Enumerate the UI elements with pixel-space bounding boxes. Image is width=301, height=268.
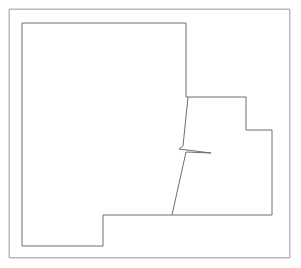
outline-map-svg bbox=[0, 0, 301, 268]
figure-container bbox=[0, 0, 301, 268]
